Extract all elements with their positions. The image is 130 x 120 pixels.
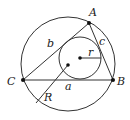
incenter-dot [78,56,82,60]
circumcenter-dot [66,63,70,67]
label-vertex-b: B [116,75,125,88]
vertex-a-dot [87,21,91,25]
vertex-b-dot [111,78,115,82]
label-circumradius: R [43,91,52,104]
label-side-b: b [47,37,54,50]
label-side-a: a [65,80,72,93]
label-vertex-a: A [88,6,97,19]
label-side-c: c [99,35,105,48]
label-vertex-c: C [7,75,16,88]
triangle-circles-diagram: A B C a b c r R [0,0,130,120]
label-inradius: r [88,46,94,59]
vertex-c-dot [21,78,25,82]
